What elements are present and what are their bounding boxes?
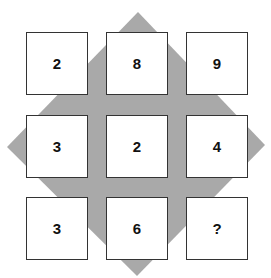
cell-r1c1: 2: [26, 32, 88, 95]
cell-value: 3: [53, 138, 61, 155]
cell-r2c1: 3: [26, 115, 88, 178]
cell-r3c1: 3: [26, 197, 88, 260]
cell-value: 3: [53, 220, 61, 237]
cell-r3c2: 6: [106, 197, 168, 260]
cell-r1c2: 8: [106, 32, 168, 95]
cell-value: 8: [133, 55, 141, 72]
cell-value: 9: [213, 55, 221, 72]
cell-value: 4: [213, 138, 221, 155]
cell-r2c3: 4: [186, 115, 248, 178]
cell-r3c3-unknown: ?: [186, 197, 248, 260]
cell-value: 6: [133, 220, 141, 237]
cell-value: 2: [133, 138, 141, 155]
cell-r2c2: 2: [106, 115, 168, 178]
cell-value: 2: [53, 55, 61, 72]
cell-value: ?: [212, 220, 221, 237]
cell-r1c3: 9: [186, 32, 248, 95]
